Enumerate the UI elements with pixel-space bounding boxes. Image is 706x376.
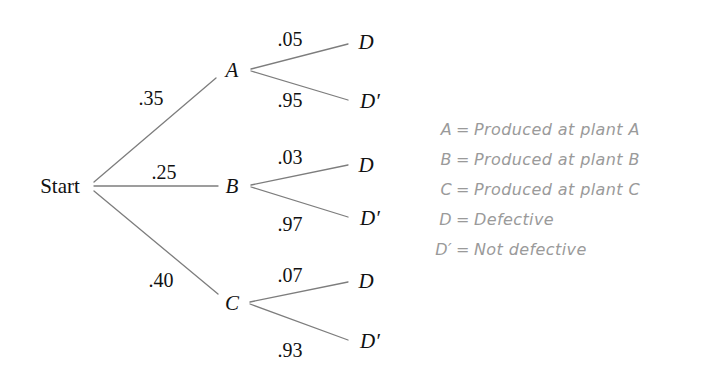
edge-c-dprime [250,304,348,340]
legend-desc-d: Defective [474,210,698,229]
leaf-b-d: D [358,153,373,178]
prob-b-dprime: .97 [278,213,303,236]
prob-c-dprime: .93 [278,339,303,362]
leaf-c-dprime: D′ [360,329,380,354]
legend-key-c: C [418,180,452,199]
legend-row-b: B = Produced at plant B [418,150,698,180]
node-b: B [226,174,239,199]
probability-tree-diagram: Start A B C .35 .25 .40 D D′ D D′ D D′ .… [0,0,706,376]
legend-eq-b: = [452,150,474,169]
prob-start-a: .35 [139,87,164,110]
prob-a-d: .05 [278,28,303,51]
legend-key-d: D [418,210,452,229]
legend-row-c: C = Produced at plant C [418,180,698,210]
node-start: Start [40,174,80,199]
legend-row-a: A = Produced at plant A [418,120,698,150]
legend-key-dprime: D′ [418,240,452,259]
leaf-b-dprime: D′ [360,206,380,231]
legend-row-d: D = Defective [418,210,698,240]
leaf-c-d: D [358,269,373,294]
legend-key-b: B [418,150,452,169]
node-a: A [226,58,239,83]
legend-eq-c: = [452,180,474,199]
prob-c-d: .07 [278,264,303,287]
legend-eq-a: = [452,120,474,139]
legend-desc-dprime: Not defective [474,240,698,259]
legend-eq-d: = [452,210,474,229]
prob-a-dprime: .95 [278,89,303,112]
legend-eq-dprime: = [452,240,474,259]
legend-desc-b: Produced at plant B [474,150,698,169]
legend-desc-c: Produced at plant C [474,180,698,199]
leaf-a-dprime: D′ [360,89,380,114]
prob-b-d: .03 [278,146,303,169]
prob-start-b: .25 [152,161,177,184]
prob-start-c: .40 [149,269,174,292]
legend: A = Produced at plant A B = Produced at … [418,120,698,270]
node-c: C [225,291,239,316]
leaf-a-d: D [358,30,373,55]
legend-desc-a: Produced at plant A [474,120,698,139]
legend-key-a: A [418,120,452,139]
legend-row-dprime: D′ = Not defective [418,240,698,270]
